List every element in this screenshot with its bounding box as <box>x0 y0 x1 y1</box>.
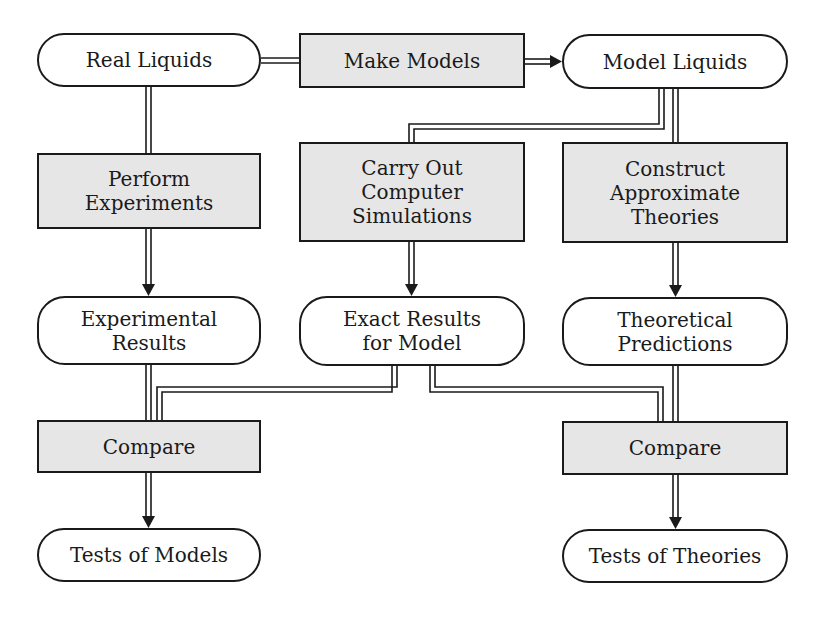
edge-compare-left-to-tests-of-models <box>146 473 151 516</box>
arrow-icon <box>142 516 155 528</box>
node-label: Results <box>112 331 187 355</box>
edge-perform-to-experimental-results <box>146 229 151 284</box>
node-label: Tests of Theories <box>589 544 762 568</box>
node-label: Tests of Models <box>70 543 228 567</box>
node-make-models: Make Models <box>299 33 525 88</box>
node-compare-left: Compare <box>37 420 261 473</box>
node-label: Real Liquids <box>86 48 212 72</box>
edge-compare-right-to-tests-of-theories <box>673 475 678 517</box>
node-label: Compare <box>103 435 195 459</box>
arrow-icon <box>669 517 682 529</box>
node-label: Experimental <box>81 307 218 331</box>
node-label: Perform <box>108 167 190 191</box>
node-label: for Model <box>363 331 462 355</box>
node-model-liquids: Model Liquids <box>562 34 788 89</box>
edge-model-liquids-to-theories <box>673 89 678 142</box>
edge-model-liquids-to-simulations <box>409 89 664 142</box>
arrow-icon <box>405 284 418 296</box>
node-label: Predictions <box>618 332 733 356</box>
node-label: Exact Results <box>343 307 481 331</box>
node-label: Computer <box>361 180 462 204</box>
node-real-liquids: Real Liquids <box>37 33 261 87</box>
node-approximate-theories: Construct Approximate Theories <box>562 142 788 243</box>
node-perform-experiments: Perform Experiments <box>37 153 261 229</box>
node-label: Carry Out <box>361 156 462 180</box>
edge-make-models-to-model-liquids <box>525 59 552 64</box>
edge-real-to-perform <box>146 87 151 153</box>
node-label: Theories <box>631 205 719 229</box>
edge-real-to-make-models <box>261 58 299 63</box>
node-theoretical-predictions: Theoretical Predictions <box>562 297 788 366</box>
node-exact-results: Exact Results for Model <box>299 296 525 366</box>
edge-predictions-to-compare-right <box>673 366 678 421</box>
node-label: Experiments <box>85 191 213 215</box>
edge-simulations-to-exact-results <box>409 242 414 284</box>
node-compare-right: Compare <box>562 421 788 475</box>
node-tests-of-models: Tests of Models <box>37 528 261 582</box>
arrow-icon <box>142 284 155 296</box>
arrow-icon <box>669 285 682 297</box>
node-label: Construct <box>625 157 725 181</box>
node-label: Simulations <box>352 204 472 228</box>
node-label: Make Models <box>344 49 481 73</box>
node-label: Compare <box>629 436 721 460</box>
node-label: Model Liquids <box>603 50 748 74</box>
node-label: Approximate <box>610 181 740 205</box>
node-tests-of-theories: Tests of Theories <box>562 529 788 583</box>
edge-exact-results-to-compare-right <box>430 366 663 421</box>
node-experimental-results: Experimental Results <box>37 296 261 365</box>
node-computer-simulations: Carry Out Computer Simulations <box>299 142 525 242</box>
node-label: Theoretical <box>617 308 732 332</box>
arrow-icon <box>550 55 562 68</box>
edge-exact-results-to-compare-left <box>157 366 397 420</box>
edge-theories-to-predictions <box>673 243 678 285</box>
edge-experimental-results-to-compare-left <box>146 365 151 420</box>
liquids-research-flowchart: Real Liquids Make Models Model Liquids P… <box>0 0 819 619</box>
